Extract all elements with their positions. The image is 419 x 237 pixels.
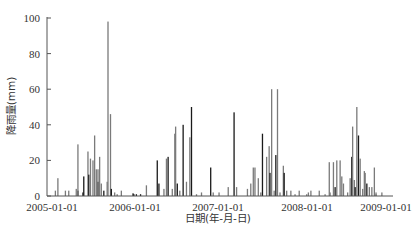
rainfall-bar xyxy=(356,107,357,196)
rainfall-bar xyxy=(369,187,370,196)
y-axis-title: 降雨量(mm) xyxy=(5,77,17,136)
rainfall-bar xyxy=(333,162,334,196)
rainfall-bar xyxy=(271,89,272,196)
y-tick-label: 80 xyxy=(29,48,41,60)
rainfall-bar xyxy=(329,162,330,196)
rainfall-bar xyxy=(157,160,158,196)
rainfall-bar xyxy=(172,189,173,196)
rainfall-bar xyxy=(88,175,89,196)
y-tick-label: 40 xyxy=(29,119,41,131)
rainfall-bar xyxy=(236,187,237,196)
rainfall-bar xyxy=(92,160,93,196)
rainfall-bar xyxy=(182,125,183,196)
rainfall-bar xyxy=(233,112,234,196)
rainfall-bar xyxy=(290,191,291,196)
rainfall-bar xyxy=(175,127,176,196)
rainfall-bar xyxy=(286,191,287,196)
rainfall-bar xyxy=(275,155,276,196)
rainfall-bar xyxy=(336,160,337,196)
y-tick-label: 20 xyxy=(29,154,41,166)
rainfall-bar xyxy=(381,192,382,196)
rainfall-bar xyxy=(179,191,180,196)
rainfall-bar xyxy=(167,157,168,196)
rainfall-bar xyxy=(77,144,78,196)
x-tick-label: 2009-01-01 xyxy=(360,201,411,213)
rainfall-bar xyxy=(201,192,202,196)
rainfall-bar xyxy=(254,168,255,196)
rainfall-bar xyxy=(374,168,375,196)
rainfall-bar xyxy=(76,189,77,196)
rainfall-bar xyxy=(371,187,372,196)
rainfall-bar xyxy=(103,191,104,196)
x-tick-label: 2006-01-01 xyxy=(109,201,160,213)
rainfall-bar xyxy=(310,191,311,196)
y-tick-label: 60 xyxy=(29,83,41,95)
rainfall-bar xyxy=(213,192,214,196)
rainfall-bar xyxy=(258,178,259,196)
rainfall-bar xyxy=(247,189,248,196)
rainfall-bar xyxy=(365,173,366,196)
rainfall-bar xyxy=(266,157,267,196)
rainfall-bar xyxy=(341,176,342,196)
rainfall-bar xyxy=(99,157,100,196)
rainfall-bar xyxy=(253,168,254,196)
rainfall-bar xyxy=(339,160,340,196)
rainfall-bar xyxy=(146,185,147,196)
rainfall-bar xyxy=(186,182,187,196)
rainfall-bar xyxy=(299,191,300,196)
rainfall-bar xyxy=(284,173,285,196)
rainfall-bar xyxy=(111,189,112,196)
x-tick-label: 2008-01-01 xyxy=(281,201,332,213)
rainfall-bar xyxy=(343,184,344,196)
rainfall-bar xyxy=(269,173,270,196)
rainfall-bar xyxy=(349,178,350,196)
rainfall-bar-chart: 020406080100 2005-01-012006-01-012007-01… xyxy=(0,0,419,237)
rainfall-bar xyxy=(57,178,58,196)
rainfall-bar xyxy=(250,184,251,196)
rainfall-bar xyxy=(107,22,108,196)
rainfall-bar xyxy=(329,192,330,196)
rainfall-bar xyxy=(189,137,190,196)
rainfall-bar xyxy=(55,191,56,196)
rainfall-bar xyxy=(210,168,211,196)
rainfall-bar xyxy=(366,184,367,196)
x-axis-title: 日期(年-月-日) xyxy=(185,212,251,224)
rainfall-bar xyxy=(319,191,320,196)
rainfall-bar xyxy=(90,159,91,196)
rainfall-bar xyxy=(347,192,348,196)
rainfall-bar xyxy=(114,192,115,196)
rainfall-bar xyxy=(228,187,229,196)
rainfall-bar xyxy=(65,191,66,196)
rainfall-bar xyxy=(260,192,261,196)
rainfall-bar xyxy=(177,184,178,196)
rainfall-bar xyxy=(97,169,98,196)
rainfall-bar xyxy=(158,184,159,196)
rainfall-bar xyxy=(163,189,164,196)
rainfall-bar xyxy=(191,107,192,196)
rainfall-bar xyxy=(110,114,111,196)
rainfall-bar xyxy=(94,135,95,196)
rainfall-bar xyxy=(101,184,102,196)
x-tick-label: 2005-01-01 xyxy=(26,201,77,213)
rainfall-bar xyxy=(96,169,97,196)
rainfall-bar xyxy=(277,89,278,196)
rainfall-bar xyxy=(166,159,167,196)
rainfall-bar xyxy=(308,192,309,196)
rainfall-bar xyxy=(375,192,376,196)
rainfall-bar xyxy=(262,134,263,196)
rainfall-bar xyxy=(279,192,280,196)
rainfall-bar xyxy=(218,192,219,196)
rainfall-bar xyxy=(83,176,84,196)
y-tick-label: 100 xyxy=(24,12,41,24)
rainfall-bar xyxy=(274,191,275,196)
rainfall-bar xyxy=(362,189,363,196)
rainfall-bar xyxy=(355,187,356,196)
rainfall-bar xyxy=(68,191,69,196)
rainfall-bar xyxy=(360,159,361,196)
bar-series xyxy=(55,22,383,196)
rainfall-bar xyxy=(334,187,335,196)
rainfall-bar xyxy=(358,135,359,196)
rainfall-bar xyxy=(121,191,122,196)
rainfall-bar xyxy=(352,127,353,196)
